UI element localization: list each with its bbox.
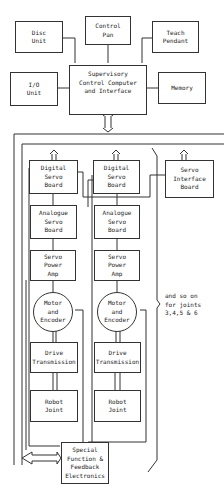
connector-disc (63, 38, 75, 63)
disc-unit-box: Disc Unit (15, 21, 63, 53)
analogue-servo-board-2: Analogue Servo Board (94, 205, 140, 239)
servo-interface-board: Servo Interface Board (165, 160, 214, 198)
servo-power-amp-2: Servo Power Amp (94, 250, 140, 281)
motor-encoder-2: Motor and Encoder (97, 292, 137, 332)
motor-encoder-1: Motor and Encoder (33, 292, 73, 332)
servo-power-amp-1: Servo Power Amp (30, 250, 76, 281)
analogue-servo-board-1: Analogue Servo Board (30, 205, 77, 239)
robot-joint-1: Robot Joint (30, 390, 78, 422)
drive-transmission-2: Drive Transmission (94, 342, 141, 373)
memory-box: Memory (158, 72, 206, 104)
bus-arrow-special (22, 452, 61, 464)
digital-servo-board-2: Digital Servo Board (93, 160, 140, 194)
bus-arrow-main (103, 112, 113, 132)
special-function-box: Special Function & Feedback Electronics (61, 442, 109, 484)
io-unit-box: I/O Unit (10, 72, 58, 106)
drive-transmission-1: Drive Transmission (30, 342, 78, 373)
teach-pendant-box: Teach Pendant (152, 21, 199, 53)
control-pan-box: Control Pan (85, 16, 131, 45)
joints-note: and so on for joints 3,4,5 & 6 (165, 292, 201, 318)
supervisory-computer-box: Supervisory Control Computer and Interfa… (69, 65, 147, 115)
robot-joint-2: Robot Joint (94, 390, 141, 422)
digital-servo-board-1: Digital Servo Board (29, 160, 78, 194)
